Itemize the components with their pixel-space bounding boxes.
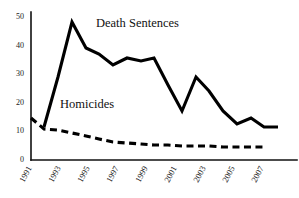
x-tick-label-1997: 1997 xyxy=(104,164,121,184)
series-line-homicides xyxy=(31,118,264,147)
x-tick-label-2003: 2003 xyxy=(191,164,208,184)
x-tick-label-1991: 1991 xyxy=(17,164,34,184)
y-tick-label-10: 10 xyxy=(16,126,24,135)
series-label-homicides: Homicides xyxy=(60,97,114,111)
y-tick-label-30: 30 xyxy=(16,69,24,78)
y-tick-label-40: 40 xyxy=(16,41,24,50)
series-line-death-sentences xyxy=(44,22,278,127)
y-axis-tick-labels: 50 40 30 20 10 0 xyxy=(16,12,24,164)
chart-container: 50 40 30 20 10 0 Death Sentences Homicid… xyxy=(0,0,299,198)
x-tick-label-1995: 1995 xyxy=(75,164,92,184)
line-chart: 50 40 30 20 10 0 Death Sentences Homicid… xyxy=(0,0,299,198)
x-tick-label-2001: 2001 xyxy=(162,164,179,184)
x-axis-tick-labels: 1991 1993 1995 1997 1999 2001 2003 2005 … xyxy=(17,164,266,184)
x-tick-label-2005: 2005 xyxy=(220,164,237,184)
x-tick-label-1993: 1993 xyxy=(46,164,63,184)
x-tick-label-1999: 1999 xyxy=(133,164,150,184)
y-tick-label-20: 20 xyxy=(16,98,24,107)
series-label-death-sentences: Death Sentences xyxy=(96,16,179,30)
y-tick-label-0: 0 xyxy=(20,155,24,164)
y-tick-label-50: 50 xyxy=(16,12,24,21)
x-tick-label-2007: 2007 xyxy=(249,164,266,184)
